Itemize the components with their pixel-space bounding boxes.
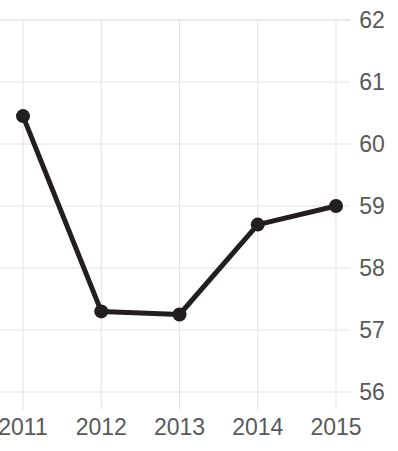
data-point-marker <box>173 308 187 322</box>
y-axis-tick-label: 60 <box>352 133 392 156</box>
x-axis-tick-label: 2011 <box>0 412 63 442</box>
x-axis-tick-label: 2012 <box>61 412 141 442</box>
data-point-marker <box>94 304 108 318</box>
line-chart-figure: 62616059585756 20112012201320142015 <box>0 0 398 451</box>
x-axis-tick-labels: 20112012201320142015 <box>0 412 350 451</box>
data-point-marker <box>329 199 343 213</box>
y-axis-tick-label: 62 <box>352 9 392 32</box>
data-point-marker <box>16 109 30 123</box>
horizontal-gridlines <box>0 20 350 392</box>
x-axis-tick-label: 2013 <box>140 412 220 442</box>
data-point-marker <box>251 218 265 232</box>
y-axis-tick-label: 57 <box>352 319 392 342</box>
y-axis-tick-label: 61 <box>352 71 392 94</box>
y-axis-tick-label: 56 <box>352 381 392 404</box>
y-axis-tick-label: 59 <box>352 195 392 218</box>
x-axis-tick-label: 2014 <box>218 412 298 442</box>
x-axis-tick-label: 2015 <box>296 412 376 442</box>
y-axis-tick-label: 58 <box>352 257 392 280</box>
plot-area <box>0 0 350 410</box>
chart-plot-svg <box>0 0 350 410</box>
y-axis-tick-labels: 62616059585756 <box>352 0 398 410</box>
